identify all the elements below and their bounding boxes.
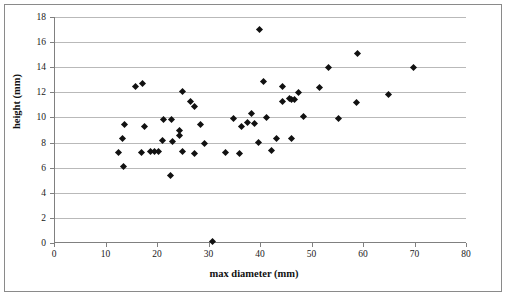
x-tick-label-50: 50 [297,249,327,259]
y-axis-title: height (mm) [11,42,22,162]
y-tick-label-14: 14 [24,62,46,72]
x-tick-label-80: 80 [451,249,481,259]
y-tickmark-8 [50,143,54,144]
data-point [155,148,162,155]
data-point [179,88,186,95]
y-tick-label-6: 6 [24,163,46,173]
data-point [139,80,146,87]
y-tick-label-10: 10 [24,112,46,122]
data-point [325,64,332,71]
y-tick-label-4: 4 [24,188,46,198]
data-point [316,84,323,91]
data-point [263,114,270,121]
data-point [197,121,204,128]
data-point [260,77,267,84]
data-point [268,147,275,154]
x-tick-label-60: 60 [348,249,378,259]
data-point [222,149,229,156]
data-point [256,26,263,33]
x-tick-label-10: 10 [91,249,121,259]
y-tickmark-10 [50,117,54,118]
gridline-y-12 [55,92,466,93]
scatter-chart-figure: 024681012141618 01020304050607080 max di… [0,0,508,298]
y-tick-label-18: 18 [24,12,46,22]
y-tickmark-4 [50,193,54,194]
data-point [141,123,148,130]
x-tick-label-70: 70 [400,249,430,259]
gridline-y-4 [55,193,466,194]
data-point [119,135,126,142]
data-point [353,99,360,106]
y-tickmark-2 [50,218,54,219]
gridline-y-18 [55,17,466,18]
x-tickmark-50 [312,243,313,247]
plot-area [54,17,466,243]
y-tick-label-16: 16 [24,37,46,47]
data-point [354,50,361,57]
x-tick-label-20: 20 [142,249,172,259]
y-tick-label-2: 2 [24,213,46,223]
data-point [179,148,186,155]
y-tick-label-12: 12 [24,87,46,97]
data-point [295,89,302,96]
data-point [115,149,122,156]
gridline-y-6 [55,168,466,169]
x-tickmark-40 [260,243,261,247]
x-tickmark-20 [157,243,158,247]
data-point [255,139,262,146]
y-tick-label-0: 0 [24,238,46,248]
data-point [169,138,176,145]
data-point [138,149,145,156]
x-tickmark-60 [363,243,364,247]
y-tickmark-6 [50,168,54,169]
gridline-y-14 [55,67,466,68]
x-tick-label-0: 0 [39,249,69,259]
y-tickmark-14 [50,67,54,68]
data-point [335,115,342,122]
x-tickmark-70 [415,243,416,247]
data-point [273,135,280,142]
y-tickmark-12 [50,92,54,93]
y-tickmark-18 [50,17,54,18]
x-tick-label-40: 40 [245,249,275,259]
x-axis-title: max diameter (mm) [0,268,508,279]
data-point [300,113,307,120]
gridline-y-16 [55,42,466,43]
data-point [410,64,417,71]
x-tickmark-10 [106,243,107,247]
gridline-y-10 [55,117,466,118]
data-point [168,116,175,123]
x-tickmark-80 [466,243,467,247]
data-point [176,131,183,138]
data-point [120,121,127,128]
data-point [167,172,174,179]
data-point [279,83,286,90]
data-point [120,163,127,170]
data-point [191,150,198,157]
y-tick-label-8: 8 [24,138,46,148]
x-tickmark-30 [209,243,210,247]
x-tickmark-0 [54,243,55,247]
gridline-y-2 [55,218,466,219]
data-point [201,140,208,147]
data-point [236,150,243,157]
data-point [248,110,255,117]
data-point [251,120,258,127]
data-point [288,135,295,142]
x-tick-label-30: 30 [194,249,224,259]
data-point [230,115,237,122]
y-tickmark-16 [50,42,54,43]
